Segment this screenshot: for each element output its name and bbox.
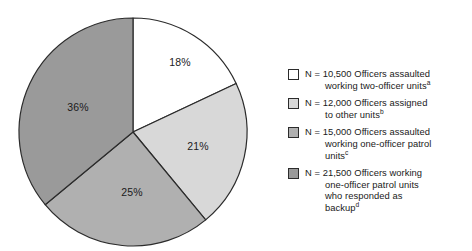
legend-item: N = 12,000 Officers assignedto other uni… bbox=[288, 97, 472, 120]
legend-item-line: to other unitsb bbox=[305, 109, 427, 121]
pie-chart-svg bbox=[0, 0, 270, 251]
legend-item-label: N = 21,500 Officers workingone-officer p… bbox=[305, 167, 422, 213]
pie-slice-percent-label: 25% bbox=[121, 186, 143, 198]
legend-item-line: who responded as bbox=[305, 190, 422, 202]
legend-item-label: N = 12,000 Officers assignedto other uni… bbox=[305, 97, 427, 120]
legend-footnote-marker: d bbox=[356, 201, 360, 208]
pie-slice-percent-label: 18% bbox=[169, 56, 191, 68]
legend-color-swatch bbox=[288, 127, 299, 138]
legend-footnote-marker: a bbox=[427, 78, 431, 85]
pie-chart-area: 18%21%25%36% bbox=[0, 0, 270, 251]
legend-item-label: N = 15,000 Officers assaultedworking one… bbox=[305, 126, 431, 161]
legend-item: N = 15,000 Officers assaultedworking one… bbox=[288, 126, 472, 161]
pie-slice-percent-label: 21% bbox=[187, 140, 209, 152]
legend-item-line: backupd bbox=[305, 202, 422, 214]
pie-slice-group bbox=[19, 18, 247, 246]
legend-color-swatch bbox=[288, 168, 299, 179]
legend-item-line: working two-officer unitsa bbox=[305, 80, 430, 92]
legend-item: N = 21,500 Officers workingone-officer p… bbox=[288, 167, 472, 213]
legend-footnote-marker: b bbox=[380, 108, 384, 115]
legend-item-line: working one-officer patrol bbox=[305, 138, 431, 150]
pie-chart-figure: 18%21%25%36% N = 10,500 Officers assault… bbox=[0, 0, 472, 251]
legend-item-label: N = 10,500 Officers assaultedworking two… bbox=[305, 68, 430, 91]
legend-item-line: one-officer patrol units bbox=[305, 179, 422, 191]
pie-slice-percent-label: 36% bbox=[67, 101, 89, 113]
legend-item: N = 10,500 Officers assaultedworking two… bbox=[288, 68, 472, 91]
legend-footnote-marker: c bbox=[345, 148, 348, 155]
legend-color-swatch bbox=[288, 69, 299, 80]
legend-color-swatch bbox=[288, 98, 299, 109]
chart-legend: N = 10,500 Officers assaultedworking two… bbox=[288, 68, 472, 220]
legend-item-line: unitsc bbox=[305, 150, 431, 162]
